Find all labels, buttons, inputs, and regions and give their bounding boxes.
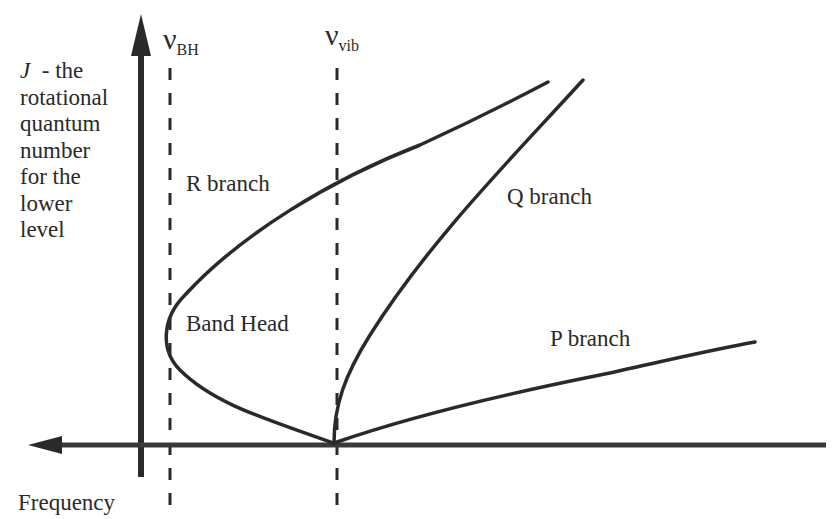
q-branch-curve — [334, 80, 583, 443]
frequency-axis-arrowhead-icon — [28, 436, 62, 454]
j-axis-label-line: lower — [20, 191, 108, 218]
q-branch-label: Q branch — [507, 184, 592, 210]
fortrat-diagram: J - the rotational quantum number for th… — [0, 0, 840, 519]
nu-bh-label: νBH — [163, 24, 199, 58]
j-axis-label-line: level — [20, 217, 108, 244]
j-axis-label-line: quantum — [20, 111, 108, 138]
frequency-axis-label: Frequency — [18, 490, 115, 516]
j-axis-label: J - the rotational quantum number for th… — [20, 58, 108, 244]
nu-vib-label: νvib — [325, 20, 359, 54]
nu-symbol: ν — [325, 18, 339, 51]
band-head-label: Band Head — [186, 311, 289, 337]
nu-symbol: ν — [163, 22, 177, 55]
p-branch-curve — [334, 342, 755, 443]
j-axis-label-line: J - the — [20, 58, 108, 85]
nu-bh-subscript: BH — [177, 41, 199, 58]
p-branch-label: P branch — [550, 326, 630, 352]
j-axis-label-line: rotational — [20, 85, 108, 112]
diagram-canvas — [0, 0, 840, 519]
j-axis-label-line: for the — [20, 164, 108, 191]
r-branch-curve — [166, 82, 548, 443]
j-axis-label-line: number — [20, 138, 108, 165]
j-symbol: J — [20, 58, 30, 83]
r-branch-label: R branch — [186, 171, 270, 197]
nu-vib-subscript: vib — [339, 37, 359, 54]
j-axis-arrowhead-icon — [131, 14, 151, 56]
